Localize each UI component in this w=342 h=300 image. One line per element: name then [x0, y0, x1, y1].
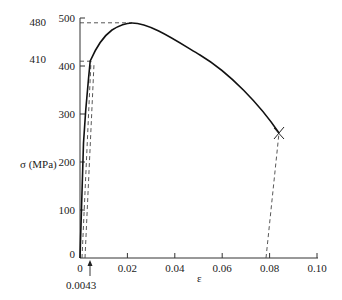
svg-text:0: 0 [77, 262, 83, 274]
svg-text:0: 0 [70, 248, 76, 260]
svg-text:200: 200 [59, 156, 76, 168]
x-ticks [127, 253, 317, 258]
x-tick-labels: 0 0.02 0.04 0.06 0.08 0.10 [77, 262, 327, 274]
svg-text:100: 100 [59, 204, 76, 216]
y-tick-labels: 500 400 300 200 100 0 [59, 12, 76, 260]
svg-text:0.06: 0.06 [213, 262, 233, 274]
yield-label: 410 [30, 53, 47, 65]
svg-text:400: 400 [59, 60, 76, 72]
y-axis-label: σ (MPa) [20, 158, 57, 171]
svg-text:0.02: 0.02 [118, 262, 137, 274]
svg-text:0.08: 0.08 [260, 262, 280, 274]
stress-strain-curve [80, 23, 279, 258]
uts-label: 480 [30, 16, 47, 28]
svg-text:300: 300 [59, 108, 76, 120]
dashed-guides [80, 23, 279, 258]
svg-text:500: 500 [59, 12, 76, 24]
strain-arrow-icon [88, 260, 93, 276]
x-axis-label: ε [197, 272, 202, 284]
stress-strain-chart: 500 400 300 200 100 0 0 0.02 0.04 0.06 0… [0, 0, 342, 300]
svg-text:0.04: 0.04 [165, 262, 185, 274]
svg-text:0.10: 0.10 [307, 262, 327, 274]
strain-marker-label: 0.0043 [66, 279, 97, 291]
